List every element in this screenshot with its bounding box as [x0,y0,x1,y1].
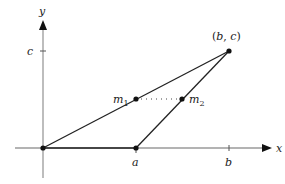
point-origin [40,145,45,150]
point-m2 [179,96,184,101]
y-axis-arrow-icon [39,20,47,30]
point-bc [226,48,231,53]
tick-label-c: c [27,45,33,58]
x-axis-arrow-icon [262,144,272,152]
label-m1: m1 [113,93,129,108]
tick-label-a: a [132,156,139,169]
point-a [133,145,138,150]
y-axis-label: y [38,5,46,18]
point-m1 [133,96,138,101]
label-bc: (b, c) [212,30,241,43]
triangle-midpoint-diagram: x y c a b (b, c) m1 m2 [0,0,285,184]
x-axis-label: x [276,142,283,155]
tick-label-b: b [225,156,232,169]
label-m2: m2 [189,93,205,108]
